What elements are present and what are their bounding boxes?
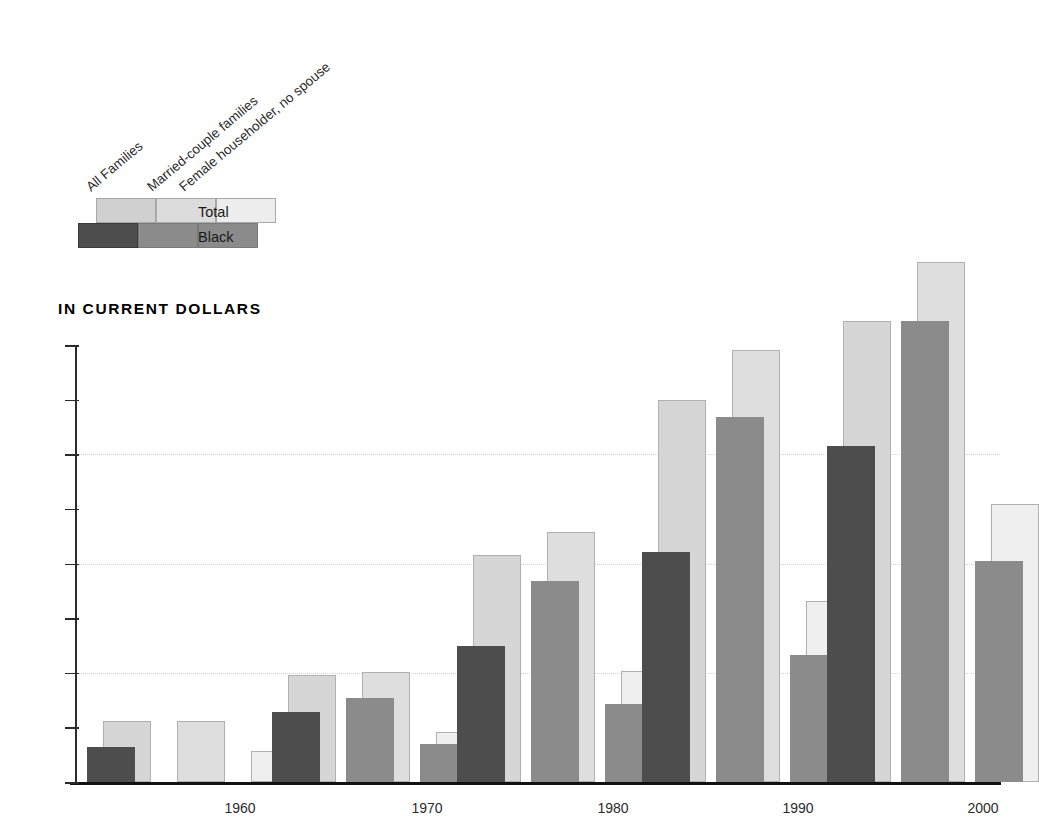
y-axis-tick: [65, 509, 79, 511]
bar-1990-all-black: [642, 552, 690, 782]
category-label-female-householder: Female householder, no spouse: [176, 59, 333, 194]
y-axis-tick: [65, 400, 79, 402]
bar-2000-female-black: [975, 561, 1023, 782]
chart-title: IN CURRENT DOLLARS: [58, 300, 262, 318]
bar-1970-married-black: [346, 698, 394, 782]
bar-1990-married-black: [716, 417, 764, 782]
bar-1980-all-black: [457, 646, 505, 782]
plot-area: 0500010000150002000025000300003500040000…: [75, 345, 1000, 782]
x-axis-tick-label: 1960: [224, 800, 255, 816]
x-axis-tick-label: 2000: [967, 800, 998, 816]
category-label-all-families: All Families: [83, 138, 146, 194]
legend-label-total: Total: [198, 200, 233, 225]
legend-swatch-total-all: [96, 198, 156, 223]
x-axis-tick-label: 1970: [411, 800, 442, 816]
legend-series-labels: Total Black: [198, 200, 233, 250]
bar-2000-all-black: [827, 446, 875, 782]
bar-2000-married-black: [901, 321, 949, 782]
legend-swatch-black-all: [78, 223, 138, 248]
y-axis-tick: [65, 618, 79, 620]
y-axis-tick: [65, 345, 79, 347]
legend-swatch-black-married: [138, 223, 198, 248]
y-axis-tick: [65, 782, 79, 784]
bar-1970-all-black: [272, 712, 320, 782]
bar-1980-married-black: [531, 581, 579, 782]
x-axis-line: [70, 782, 1001, 785]
x-axis-tick-label: 1990: [782, 800, 813, 816]
y-axis-tick: [65, 454, 79, 456]
bar-1960-married-total: [177, 721, 225, 782]
y-axis-tick: [65, 673, 79, 675]
y-axis-tick: [65, 564, 79, 566]
legend-row-total: [96, 198, 276, 223]
x-axis-tick-label: 1980: [597, 800, 628, 816]
category-label-group: All Families Married-couple families Fem…: [0, 0, 420, 200]
y-axis-tick: [65, 727, 79, 729]
category-label-married-couple: Married-couple families: [144, 93, 261, 194]
bar-1960-all-black: [87, 747, 135, 782]
legend-label-black: Black: [198, 225, 233, 250]
